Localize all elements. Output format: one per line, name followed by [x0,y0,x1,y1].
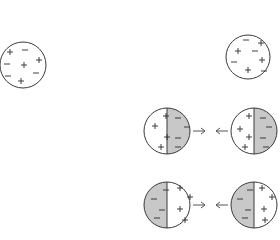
plus-charge-icon [259,185,265,191]
arrow-left-icon [216,128,228,134]
arrow-right-icon [193,202,205,208]
polarized-sphere-bottom-right [230,182,277,228]
plus-charge-icon [246,134,252,140]
plus-charge-icon [235,48,241,54]
plus-charge-icon [261,206,267,212]
plus-charge-icon [242,144,248,150]
plus-charge-icon [262,217,268,223]
plus-charge-icon [245,67,251,73]
arrow-right-icon [193,128,205,134]
charge-group [4,49,42,84]
plus-charge-icon [177,185,183,191]
plus-charge-icon [177,206,183,212]
polarized-sphere-bottom-left [143,182,193,228]
polarized-sphere-mid-left [144,108,191,154]
shaded-negative-half [230,182,254,228]
plus-charge-icon [18,78,24,84]
plus-charge-icon [237,126,243,132]
plus-charge-icon [36,57,42,63]
plus-charge-icon [21,62,27,68]
plus-charge-icon [259,57,265,63]
plus-charge-icon [246,113,252,119]
charge-group [231,40,267,73]
shaded-negative-half [143,182,167,228]
arrow-left-icon [216,202,228,208]
polarized-sphere-mid-right [231,108,278,154]
plus-charge-icon [7,49,13,55]
plus-charge-icon [269,194,275,200]
plus-charge-icon [152,123,158,129]
neutral-sphere-right [226,35,270,79]
neutral-sphere-left [0,42,46,88]
charge-diagram [0,0,280,240]
plus-charge-icon [158,144,164,150]
